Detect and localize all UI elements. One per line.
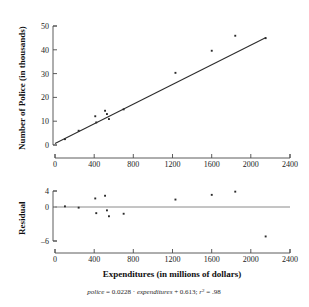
ytick-label: 20 — [41, 93, 49, 102]
data-point — [95, 122, 97, 124]
xtick-label: 400 — [88, 160, 100, 169]
xtick-label: 1200 — [165, 160, 181, 169]
data-point — [175, 199, 177, 201]
caption-r-value: .98 — [212, 288, 221, 296]
data-point — [78, 207, 80, 209]
data-point — [211, 50, 213, 52]
scatter-y-axis — [53, 26, 57, 145]
residual-y-axis-title: Residual — [17, 201, 27, 235]
xtick-label: 800 — [127, 255, 139, 264]
xtick-label: 1200 — [165, 255, 181, 264]
caption-r-equals: = — [205, 288, 212, 296]
caption-lhs: police — [86, 288, 104, 296]
ytick-label: 0 — [45, 203, 49, 212]
statistics-figure: 50 40 30 20 10 0 Number of Police (in th… — [0, 0, 309, 307]
xtick-label: 2000 — [243, 160, 259, 169]
data-point — [234, 35, 236, 37]
caption-eq: = — [104, 288, 111, 296]
data-point — [64, 138, 66, 140]
scatter-x-tick-labels: 0 400 800 1200 1600 2000 2400 — [53, 160, 298, 169]
residual-x-axis-title: Expenditures (in millions of dollars) — [103, 269, 241, 279]
xtick-label: 0 — [53, 255, 57, 264]
regression-line — [55, 38, 266, 144]
xtick-label: 1600 — [204, 255, 220, 264]
caption-plus: + — [172, 288, 179, 296]
ytick-label: 50 — [41, 22, 49, 31]
xtick-label: 400 — [88, 255, 100, 264]
data-point — [104, 195, 106, 197]
residual-x-ticks — [55, 249, 290, 253]
data-point — [95, 212, 97, 214]
ytick-label: 4 — [45, 187, 49, 196]
scatter-points — [64, 35, 267, 140]
ytick-label: 30 — [41, 70, 49, 79]
scatter-y-axis-title: Number of Police (in thousands) — [17, 26, 27, 150]
residual-x-tick-labels: 0 400 800 1200 1600 2000 2400 — [53, 255, 298, 264]
data-point — [175, 72, 177, 74]
regression-equation-caption: police = 0.0228 · expenditures + 0.613; … — [86, 288, 221, 297]
caption-intercept: 0.613 — [180, 288, 196, 296]
scatter-y-ticks — [53, 26, 57, 145]
residual-points — [64, 191, 267, 238]
residual-panel: 4 0 –6 Residual — [17, 187, 298, 279]
ytick-label: 40 — [41, 46, 49, 55]
data-point — [64, 205, 66, 207]
data-point — [123, 108, 125, 110]
data-point — [108, 118, 110, 120]
ytick-label: 10 — [41, 117, 49, 126]
data-point — [94, 198, 96, 200]
data-point — [234, 191, 236, 193]
xtick-label: 1600 — [204, 160, 220, 169]
figure-container: 50 40 30 20 10 0 Number of Police (in th… — [0, 0, 309, 307]
scatter-x-ticks — [55, 154, 290, 158]
xtick-label: 800 — [127, 160, 139, 169]
residual-y-tick-labels: 4 0 –6 — [40, 187, 49, 246]
xtick-label: 2400 — [282, 160, 298, 169]
data-point — [108, 215, 110, 217]
data-point — [211, 194, 213, 196]
residual-y-ticks — [53, 191, 57, 241]
caption-variable: expenditures — [137, 288, 173, 296]
data-point — [78, 130, 80, 132]
ytick-label: –6 — [40, 237, 49, 246]
data-point — [265, 37, 267, 39]
xtick-label: 2400 — [282, 255, 298, 264]
xtick-label: 0 — [53, 160, 57, 169]
residual-y-axis — [53, 191, 57, 241]
data-point — [106, 113, 108, 115]
xtick-label: 2000 — [243, 255, 259, 264]
data-point — [123, 213, 125, 215]
scatter-y-tick-labels: 50 40 30 20 10 0 — [41, 22, 49, 150]
data-point — [94, 115, 96, 117]
data-point — [106, 209, 108, 211]
scatter-panel: 50 40 30 20 10 0 Number of Police (in th… — [17, 22, 298, 169]
data-point — [265, 236, 267, 238]
data-point — [104, 110, 106, 112]
caption-slope: 0.0228 — [112, 288, 132, 296]
ytick-label: 0 — [45, 141, 49, 150]
